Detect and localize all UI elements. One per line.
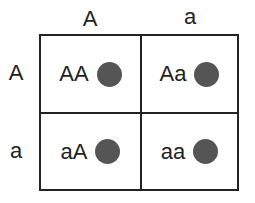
cell-AA: AA xyxy=(41,36,140,112)
genotype-label: AA xyxy=(59,61,88,87)
dot-icon xyxy=(194,62,219,87)
cell-aa: aa xyxy=(142,114,237,189)
row-header-A: A xyxy=(4,62,28,84)
dot-icon xyxy=(193,139,218,164)
cell-Aa: Aa xyxy=(142,36,237,112)
cell-aA: aA xyxy=(41,114,140,189)
genotype-label: aA xyxy=(61,139,88,165)
dot-icon xyxy=(97,62,122,87)
genotype-label: Aa xyxy=(160,61,187,87)
genotype-label: aa xyxy=(161,139,185,165)
dot-icon xyxy=(95,139,120,164)
column-header-a: a xyxy=(170,6,210,28)
punnett-grid: AA Aa aA aa xyxy=(39,34,239,191)
row-header-a: a xyxy=(4,140,28,162)
column-header-A: A xyxy=(70,8,110,30)
